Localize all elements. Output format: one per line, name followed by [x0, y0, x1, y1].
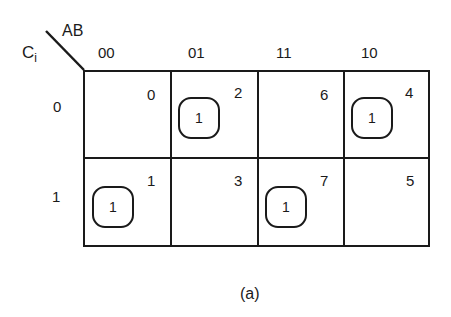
col-header-00: 00: [98, 44, 115, 61]
cell-index-6: 6: [320, 86, 328, 103]
figure-caption: (a): [240, 285, 260, 303]
cell-value-2: 1: [195, 110, 203, 126]
row-header-1: 1: [52, 188, 60, 205]
cell-index-4: 4: [405, 84, 413, 101]
col-header-11: 11: [276, 44, 292, 61]
cell-index-1: 1: [147, 172, 155, 189]
row-variable-label: Ci: [22, 43, 37, 65]
row-variable-name: C: [22, 43, 34, 62]
row-header-0: 0: [53, 98, 61, 115]
kmap-grid: 0 2 1 6 4 1 1 1 3 7 1 5: [83, 70, 430, 247]
minterm-group-7: 1: [265, 186, 307, 228]
col-variable-label: AB: [62, 22, 83, 40]
cell-value-1: 1: [109, 199, 117, 215]
divider-row: [85, 157, 428, 159]
cell-index-5: 5: [406, 172, 414, 189]
minterm-group-4: 1: [351, 97, 393, 139]
col-header-10: 10: [361, 44, 378, 61]
cell-value-4: 1: [368, 110, 376, 126]
col-header-01: 01: [188, 44, 205, 61]
cell-value-7: 1: [282, 199, 290, 215]
cell-index-2: 2: [234, 84, 242, 101]
cell-index-0: 0: [147, 86, 155, 103]
minterm-group-1: 1: [92, 186, 134, 228]
cell-index-7: 7: [320, 172, 328, 189]
cell-index-3: 3: [234, 172, 242, 189]
row-variable-subscript: i: [34, 51, 37, 65]
minterm-group-2: 1: [178, 97, 220, 139]
